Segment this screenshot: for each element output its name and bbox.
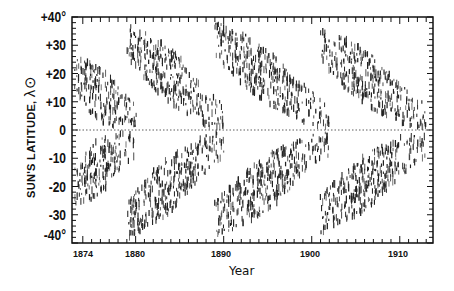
y-axis-title-text: SUN'S LATITUDE, (25, 101, 37, 198)
x-tick-label: 1874 (73, 249, 93, 259)
y-tick-label: +40° (34, 8, 66, 25)
sunspot-marks (75, 22, 426, 241)
x-tick-label: 1900 (300, 249, 320, 259)
lambda-sun-symbol: λ⊙ (21, 76, 38, 97)
y-tick-label: -30 (34, 206, 66, 223)
y-tick-label: +30 (34, 36, 66, 53)
x-tick-label: 1890 (211, 249, 231, 259)
y-tick-label: -40° (34, 226, 66, 243)
x-axis-title: Year (229, 264, 254, 278)
x-tick-label: 1880 (125, 249, 145, 259)
y-axis-title: SUN'S LATITUDE, λ⊙ (21, 67, 39, 207)
butterfly-chart (0, 0, 454, 291)
x-tick-label: 1910 (388, 249, 408, 259)
